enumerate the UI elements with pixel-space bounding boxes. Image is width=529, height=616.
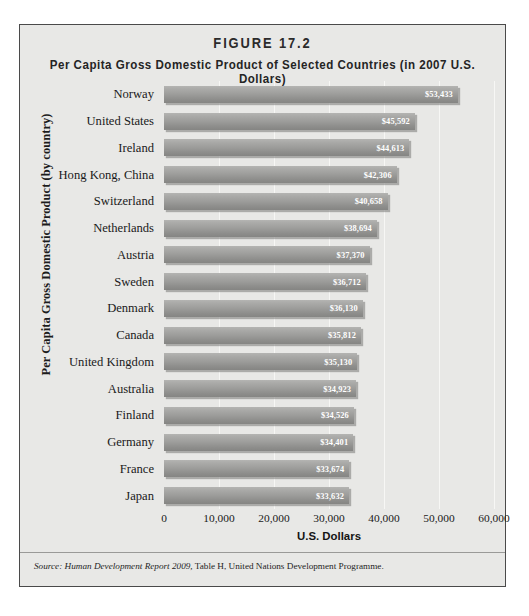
gridline (494, 81, 495, 509)
bar-category-label: Hong Kong, China (59, 167, 155, 182)
bar[interactable]: $34,526 (164, 407, 354, 424)
x-axis-title: U.S. Dollars (164, 530, 494, 542)
bar-row[interactable]: Switzerland$40,658 (164, 193, 494, 210)
bar-category-label: Norway (113, 87, 154, 102)
bar-row[interactable]: Netherlands$38,694 (164, 220, 494, 237)
bar[interactable]: $44,613 (164, 139, 409, 156)
bar-value-label: $45,592 (382, 117, 410, 126)
bar-category-label: Denmark (107, 301, 154, 316)
bar-row[interactable]: Ireland$44,613 (164, 139, 494, 156)
bar-value-label: $35,812 (328, 331, 356, 340)
source-note: Source: Human Development Report 2009, T… (34, 561, 495, 571)
bar-value-label: $42,306 (364, 170, 392, 179)
bar[interactable]: $38,694 (164, 220, 377, 237)
bar-row[interactable]: United States$45,592 (164, 113, 494, 130)
bar-row[interactable]: United Kingdom$35,130 (164, 353, 494, 370)
figure-card: FIGURE 17.2 Per Capita Gross Domestic Pr… (19, 24, 506, 587)
bar-category-label: United Kingdom (69, 354, 154, 369)
bar-row[interactable]: Denmark$36,130 (164, 300, 494, 317)
bar-row[interactable]: Finland$34,526 (164, 407, 494, 424)
bar-value-label: $34,923 (323, 384, 351, 393)
bar-value-label: $33,674 (316, 464, 344, 473)
bar[interactable]: $36,130 (164, 300, 363, 317)
bar-row[interactable]: Germany$34,401 (164, 434, 494, 451)
source-prefix: Source: (34, 561, 62, 571)
bar-value-label: $34,401 (320, 438, 348, 447)
bar-row[interactable]: Japan$33,632 (164, 487, 494, 504)
x-axis-tick-label: 0 (161, 512, 167, 524)
x-axis-tick-label: 60,000 (478, 512, 509, 524)
bar-row[interactable]: Hong Kong, China$42,306 (164, 166, 494, 183)
bar-value-label: $53,433 (425, 90, 453, 99)
bar-value-label: $36,712 (333, 277, 361, 286)
bar-category-label: Canada (116, 328, 154, 343)
y-axis-title: Per Capita Gross Domestic Product (by co… (39, 85, 54, 405)
bar[interactable]: $34,923 (164, 380, 356, 397)
bar[interactable]: $42,306 (164, 166, 397, 183)
figure-number: FIGURE 17.2 (54, 34, 471, 51)
bar-category-label: France (120, 461, 154, 476)
bar-category-label: Switzerland (94, 194, 154, 209)
x-axis-ticks: 010,00020,00030,00040,00050,00060,000 (164, 512, 494, 528)
bar-row[interactable]: Austria$37,370 (164, 246, 494, 263)
bar[interactable]: $34,401 (164, 434, 353, 451)
bar-value-label: $38,694 (344, 224, 372, 233)
bar[interactable]: $33,632 (164, 487, 349, 504)
bar-category-label: Australia (108, 381, 154, 396)
bar-value-label: $35,130 (324, 357, 352, 366)
x-axis-tick-label: 10,000 (203, 512, 234, 524)
bar-category-label: Netherlands (93, 221, 154, 236)
bar[interactable]: $37,370 (164, 246, 370, 263)
bar-value-label: $40,658 (355, 197, 383, 206)
bar-value-label: $37,370 (337, 250, 365, 259)
x-axis-tick-label: 20,000 (258, 512, 289, 524)
x-axis-tick-label: 40,000 (368, 512, 399, 524)
bar-value-label: $33,632 (316, 491, 344, 500)
bar-category-label: Ireland (118, 140, 154, 155)
x-axis-tick-label: 30,000 (313, 512, 344, 524)
bar[interactable]: $35,130 (164, 353, 357, 370)
bar[interactable]: $40,658 (164, 193, 388, 210)
plot-area: Norway$53,433United States$45,592Ireland… (164, 81, 494, 509)
bar-category-label: Finland (116, 408, 154, 423)
bar-row[interactable]: France$33,674 (164, 460, 494, 477)
source-title: Human Development Report 2009, (65, 561, 193, 571)
bar-series: Norway$53,433United States$45,592Ireland… (164, 81, 494, 509)
bar[interactable]: $45,592 (164, 113, 415, 130)
x-axis-tick-label: 50,000 (423, 512, 454, 524)
source-divider (20, 552, 505, 553)
bar-value-label: $36,130 (330, 304, 358, 313)
bar[interactable]: $35,812 (164, 327, 361, 344)
bar-row[interactable]: Sweden$36,712 (164, 273, 494, 290)
bar-category-label: Sweden (114, 274, 154, 289)
bar-value-label: $44,613 (376, 143, 404, 152)
source-rest: Table H, United Nations Development Prog… (195, 561, 384, 571)
bar-value-label: $34,526 (321, 411, 349, 420)
figure-header: FIGURE 17.2 Per Capita Gross Domestic Pr… (20, 25, 505, 86)
bar-category-label: Austria (117, 247, 154, 262)
bar[interactable]: $36,712 (164, 273, 366, 290)
bar-category-label: Japan (125, 488, 154, 503)
bar-row[interactable]: Norway$53,433 (164, 86, 494, 103)
bar-row[interactable]: Canada$35,812 (164, 327, 494, 344)
bar-category-label: United States (86, 114, 154, 129)
bar-category-label: Germany (107, 435, 154, 450)
bar[interactable]: $33,674 (164, 460, 349, 477)
bar[interactable]: $53,433 (164, 86, 458, 103)
bar-row[interactable]: Australia$34,923 (164, 380, 494, 397)
